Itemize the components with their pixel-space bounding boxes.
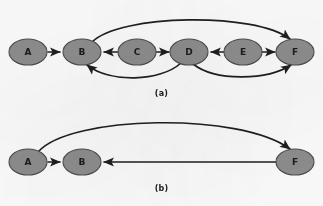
node-b-F[interactable]: F bbox=[276, 149, 314, 175]
node-a-A-label: A bbox=[25, 47, 32, 57]
panel-b-caption: (b) bbox=[0, 184, 323, 193]
graph-panel-b: A B F bbox=[0, 103, 323, 184]
node-a-C-label: C bbox=[134, 47, 141, 57]
edge-a-D-to-F bbox=[193, 64, 291, 77]
node-b-A[interactable]: A bbox=[9, 149, 47, 175]
edge-b-A-to-F bbox=[38, 123, 290, 152]
node-a-A[interactable]: A bbox=[9, 39, 47, 65]
node-b-A-label: A bbox=[25, 157, 32, 167]
node-a-D[interactable]: D bbox=[170, 39, 208, 65]
node-a-B[interactable]: B bbox=[63, 39, 101, 65]
node-b-B[interactable]: B bbox=[63, 149, 101, 175]
figure-container: A B C D E F (a) bbox=[0, 0, 323, 206]
node-b-F-label: F bbox=[292, 157, 298, 167]
node-a-E-label: E bbox=[240, 47, 246, 57]
node-a-E[interactable]: E bbox=[224, 39, 262, 65]
node-a-C[interactable]: C bbox=[118, 39, 156, 65]
node-a-D-label: D bbox=[185, 47, 192, 57]
panel-a-caption: (a) bbox=[0, 89, 323, 98]
node-a-B-label: B bbox=[79, 47, 86, 57]
node-b-B-label: B bbox=[79, 157, 86, 167]
node-a-F-label: F bbox=[292, 47, 298, 57]
node-a-F[interactable]: F bbox=[276, 39, 314, 65]
graph-panel-a: A B C D E F bbox=[0, 0, 323, 88]
